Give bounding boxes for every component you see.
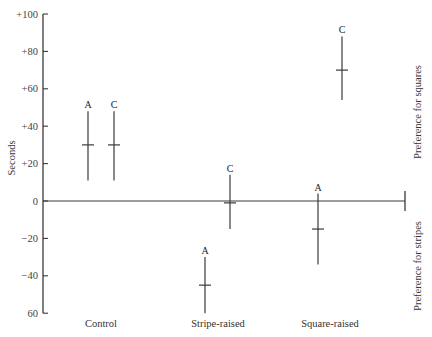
- annotation-preference-squares: Preference for squares: [412, 65, 423, 159]
- y-tick-label: 0: [33, 196, 38, 207]
- point-label: A: [314, 182, 322, 193]
- point-label: C: [339, 24, 346, 35]
- y-tick-label: +80: [22, 46, 38, 57]
- y-tick-label: −20: [22, 233, 38, 244]
- y-axis-title: Seconds: [6, 141, 17, 176]
- y-axis: +100+80+60+40+200−20−4060: [16, 9, 48, 319]
- error-bar-control-a: A: [82, 99, 94, 180]
- category-label-square-raised: Square-raised: [301, 318, 359, 329]
- point-label: C: [227, 163, 234, 174]
- y-tick-label: +60: [22, 83, 38, 94]
- y-tick-label: +20: [22, 158, 38, 169]
- y-tick-label: 60: [28, 308, 39, 319]
- error-bar-stripe-raised-c: C: [224, 163, 236, 229]
- category-labels: ControlStripe-raisedSquare-raised: [85, 318, 360, 329]
- y-tick-label: +100: [16, 9, 38, 20]
- error-bar-control-c: C: [108, 99, 120, 180]
- annotation-preference-stripes: Preference for stripes: [412, 221, 423, 311]
- y-tick-label: +40: [22, 121, 38, 132]
- error-bar-stripe-raised-a: A: [199, 245, 211, 313]
- data-points: ACACAC: [82, 24, 348, 313]
- error-bar-square-raised-c: C: [336, 24, 348, 100]
- zero-baseline: [43, 191, 405, 211]
- chart: +100+80+60+40+200−20−4060 ACACAC Control…: [0, 0, 432, 337]
- point-label: C: [111, 99, 118, 110]
- point-label: A: [84, 99, 92, 110]
- error-bar-square-raised-a: A: [312, 182, 324, 265]
- y-tick-label: −40: [22, 270, 38, 281]
- category-label-stripe-raised: Stripe-raised: [191, 318, 245, 329]
- category-label-control: Control: [85, 318, 117, 329]
- point-label: A: [201, 245, 209, 256]
